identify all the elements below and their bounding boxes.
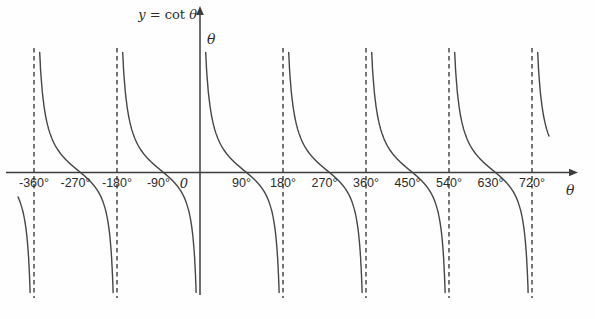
x-tick-label: -90°: [147, 176, 170, 190]
x-tick-label: -270°: [60, 176, 90, 190]
x-tick-label: 270°: [312, 176, 338, 190]
x-tick-label: 540°: [436, 176, 462, 190]
x-tick-label: -180°: [102, 176, 132, 190]
y-axis-label: θ: [207, 31, 215, 47]
x-tick-label: 90°: [232, 176, 251, 190]
x-tick-label: 720°: [519, 176, 545, 190]
cot-curve-branch: [538, 52, 549, 136]
title-equals-cot: = cot: [146, 7, 190, 22]
cot-curve-branch: [18, 197, 30, 293]
x-axis-label: θ: [566, 182, 574, 198]
x-tick-label: -360°: [19, 176, 49, 190]
x-tick-label: 450°: [395, 176, 421, 190]
y-axis-arrow-icon: [196, 6, 204, 15]
title-y: y: [138, 7, 145, 22]
title-theta: θ: [189, 7, 197, 22]
cotangent-graph-figure: -360°-270°-180°-90°090°180°270°360°450°5…: [0, 0, 595, 319]
x-tick-label: 360°: [353, 176, 379, 190]
chart-title: y = cot θ: [100, 7, 197, 22]
origin-label: 0: [180, 176, 188, 191]
x-axis-arrow-icon: [569, 169, 578, 177]
x-tick-label: 630°: [478, 176, 504, 190]
x-tick-label: 180°: [270, 176, 296, 190]
plot-canvas: -360°-270°-180°-90°090°180°270°360°450°5…: [0, 0, 595, 319]
